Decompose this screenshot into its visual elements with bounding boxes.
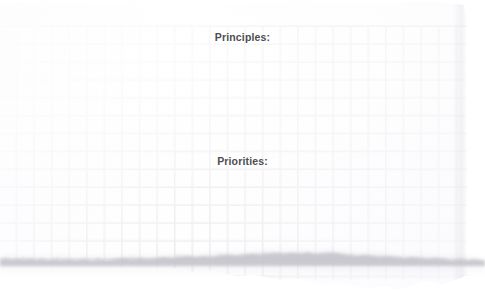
principles-heading: Principles:	[0, 31, 485, 43]
principles-heading-text: Principles:	[215, 31, 270, 43]
grid-paper-sheet: Principles: Priorities:	[0, 0, 485, 304]
note-canvas: Principles: Priorities:	[0, 0, 485, 304]
grid-lines	[0, 26, 473, 280]
priorities-heading: Priorities:	[0, 155, 485, 167]
priorities-heading-text: Priorities:	[217, 155, 268, 167]
